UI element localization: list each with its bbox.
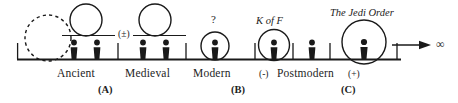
sign-postmodern-plus: (+) bbox=[348, 70, 360, 80]
figure-postmodern-jedi bbox=[360, 39, 367, 59]
figure-medieval-2 bbox=[163, 40, 170, 59]
era-label-modern: Modern bbox=[193, 68, 231, 80]
group-marker-c: (C) bbox=[341, 85, 356, 96]
era-label-ancient: Ancient bbox=[57, 68, 95, 80]
infinity-arrow-head bbox=[419, 41, 431, 49]
figure-medieval-1 bbox=[140, 40, 147, 59]
prehistory-dashed-circle-group bbox=[25, 15, 71, 61]
infinity-arrow-group bbox=[392, 41, 431, 49]
infinity-symbol: ∞ bbox=[436, 38, 445, 50]
prehistory-dashed-circle bbox=[25, 15, 71, 61]
figure-modern-unknown bbox=[212, 40, 219, 59]
sign-postmodern-minus: (-) bbox=[259, 70, 269, 80]
annotation-k-of-f: K of F bbox=[256, 16, 283, 27]
figure-postmodern-minus bbox=[309, 40, 316, 59]
group-marker-a: (A) bbox=[98, 85, 113, 96]
diagram-canvas: ? K of F The Jedi Order (±) Ancient Medi… bbox=[0, 0, 458, 103]
figure-ancient-1 bbox=[71, 40, 78, 59]
era-label-medieval: Medieval bbox=[125, 68, 170, 80]
sign-ancient-medieval-boundary: (±) bbox=[118, 30, 130, 40]
medieval-open-circle bbox=[139, 4, 171, 36]
era-label-postmodern: Postmodern bbox=[277, 68, 334, 80]
annotation-jedi-order: The Jedi Order bbox=[330, 8, 394, 19]
figure-ancient-2 bbox=[94, 40, 101, 59]
group-marker-b: (B) bbox=[231, 85, 245, 96]
figure-modern-kof bbox=[271, 40, 278, 59]
figure-group bbox=[71, 39, 368, 59]
ancient-open-circle bbox=[70, 4, 102, 36]
annotation-unknown-modern: ? bbox=[211, 14, 216, 25]
